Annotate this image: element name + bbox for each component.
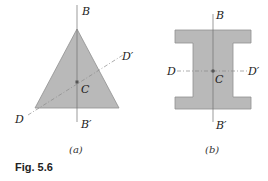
label-c-b: C	[215, 73, 224, 86]
sublabel-a: (a)	[69, 144, 83, 155]
label-d-a: D	[14, 113, 24, 126]
label-c-a: C	[81, 83, 90, 96]
label-b-a: B	[81, 5, 90, 18]
panel-b: B B′ D D′ C (b)	[166, 9, 260, 155]
centroid-a	[76, 81, 79, 84]
label-b-prime-a: B′	[80, 118, 92, 131]
label-d-b: D	[166, 65, 176, 78]
label-d-prime-b: D′	[247, 65, 260, 78]
figure-canvas: B B′ D D′ C (a) B B′ D D′ C (b) Fig. 5.6	[0, 0, 268, 181]
label-d-prime-a: D′	[121, 50, 134, 63]
figure-caption: Fig. 5.6	[15, 161, 53, 173]
sublabel-b: (b)	[205, 144, 219, 155]
panel-a: B B′ D D′ C (a)	[14, 5, 134, 155]
label-b-b: B	[215, 9, 224, 22]
label-b-prime-b: B′	[215, 119, 227, 132]
